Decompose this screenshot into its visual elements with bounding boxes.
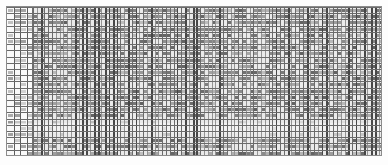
- data-grid-viewport[interactable]: [6, 6, 382, 156]
- data-column-rules: [33, 7, 381, 155]
- row-header-cell-fills: [7, 7, 32, 155]
- data-cell-fills: [33, 7, 381, 155]
- row-header-pane[interactable]: [7, 7, 33, 155]
- data-cells-pane[interactable]: [33, 7, 381, 155]
- screenshot-root: Spreadsheet data grid: [0, 0, 388, 165]
- row-header-column-rules: [7, 7, 32, 155]
- data-row-rules: [33, 7, 381, 155]
- row-header-row-rules: [7, 7, 32, 155]
- data-grid-body[interactable]: [7, 7, 381, 155]
